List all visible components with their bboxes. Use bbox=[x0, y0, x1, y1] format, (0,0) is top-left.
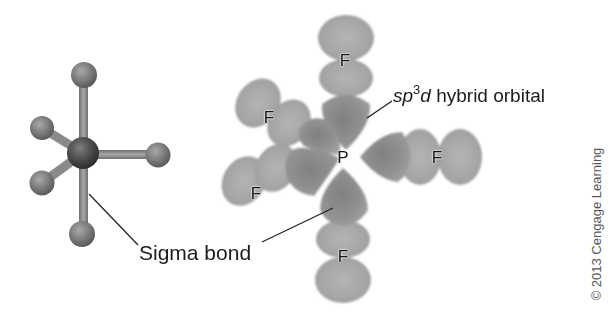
fluorine-atom-upper-left bbox=[30, 116, 54, 140]
orbital-label-fluorine-top: F bbox=[340, 52, 350, 69]
copyright-notice: © 2013 Cengage Learning bbox=[589, 148, 604, 301]
phosphorus-atom bbox=[67, 137, 99, 169]
fluorine-atom-lower-left bbox=[30, 171, 55, 196]
orbital-label-phosphorus: P bbox=[337, 149, 348, 166]
fluorine-atom-right bbox=[146, 143, 171, 168]
ball-and-stick-model bbox=[30, 62, 171, 247]
hybrid-orbital-sp: sp bbox=[393, 85, 413, 106]
pf5-diagram: F F F F F P Sigma bond sp3d hybrid orbit… bbox=[0, 0, 609, 321]
diagram-artwork bbox=[0, 0, 609, 321]
hybrid-orbital-leader bbox=[367, 101, 392, 118]
hybrid-orbital-superscript: 3 bbox=[413, 82, 420, 97]
fluorine-atom-bottom bbox=[69, 221, 95, 247]
orbital-label-fluorine-lower-left: F bbox=[251, 185, 261, 202]
sigma-bond-leader-left bbox=[89, 194, 138, 245]
hybrid-orbital-d: d bbox=[420, 85, 431, 106]
hybrid-orbital-label: sp3d hybrid orbital bbox=[393, 83, 545, 107]
orbital-label-fluorine-upper-left: F bbox=[264, 109, 274, 126]
sigma-bond-label: Sigma bond bbox=[139, 241, 251, 265]
hybrid-orbital-suffix: hybrid orbital bbox=[431, 85, 545, 106]
orbital-label-fluorine-right: F bbox=[432, 149, 442, 166]
fluorine-atom-top bbox=[71, 62, 97, 88]
orbital-label-fluorine-bottom: F bbox=[338, 248, 348, 265]
hybrid-lobe-right bbox=[360, 132, 410, 182]
fluorine-lobe-right-outer bbox=[438, 129, 482, 185]
